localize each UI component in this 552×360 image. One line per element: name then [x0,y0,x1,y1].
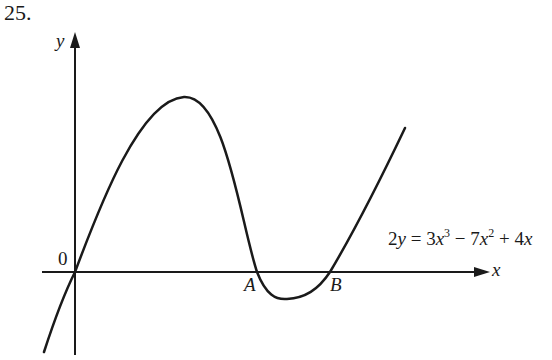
eq-term3-var: x [524,228,532,249]
eq-term2-coef: 7 [470,228,480,249]
eq-lhs-var: y [398,228,406,249]
curve-equation: 2y = 3x3 − 7x2 + 4x [388,228,532,250]
eq-op1: − [450,228,470,249]
y-axis-label: y [56,30,64,52]
cubic-graph [0,0,552,360]
eq-lhs-coef: 2 [388,228,398,249]
eq-term1-var: x [436,228,444,249]
x-axis-label: x [492,259,500,281]
point-a-label: A [244,274,256,296]
eq-equals: = [406,228,426,249]
point-b-label: B [330,274,342,296]
x-axis-arrow-icon [474,267,490,277]
eq-term3-coef: 4 [514,228,524,249]
eq-term2-var: x [480,228,488,249]
cubic-curve [44,97,405,352]
eq-term1-coef: 3 [426,228,436,249]
origin-label: 0 [58,248,68,270]
y-axis-arrow-icon [70,32,80,48]
eq-op2: + [494,228,514,249]
